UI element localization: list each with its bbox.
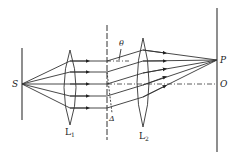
label-delta: Δ xyxy=(108,114,115,123)
incident-rays xyxy=(22,61,70,108)
grating-diagram: S L 1 L 2 θ Δ P O xyxy=(0,0,233,159)
focused-rays xyxy=(143,50,217,97)
label-lens1-sub: 1 xyxy=(71,131,75,138)
label-p: P xyxy=(219,55,227,65)
label-o: O xyxy=(220,79,228,89)
label-source: S xyxy=(12,79,18,89)
label-lens2-sub: 2 xyxy=(145,135,149,142)
label-theta: θ xyxy=(119,39,124,48)
angle-marker xyxy=(119,49,121,60)
